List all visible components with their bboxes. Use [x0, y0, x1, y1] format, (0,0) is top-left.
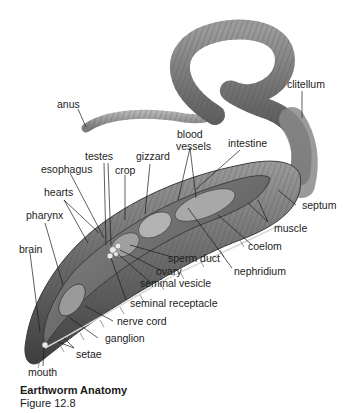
earthworm-anatomy-figure: anus clitellum blood vessels intestine t… [0, 0, 353, 413]
label-vessels: vessels [176, 140, 211, 152]
label-anus: anus [57, 98, 80, 110]
label-muscle: muscle [274, 222, 307, 234]
label-testes: testes [85, 150, 113, 162]
label-ovary: ovary [156, 265, 182, 277]
label-nephridium: nephridium [234, 265, 286, 277]
label-gizzard: gizzard [136, 150, 170, 162]
label-brain: brain [19, 243, 42, 255]
label-mouth: mouth [28, 366, 57, 378]
label-seminal-receptacle: seminal receptacle [130, 297, 218, 309]
label-ganglion: ganglion [105, 332, 145, 344]
label-setae: setae [76, 348, 102, 360]
figure-number: Figure 12.8 [20, 397, 76, 409]
label-seminal-vesicle: seminal vesicle [140, 277, 211, 289]
earthworm-illustration [0, 0, 353, 413]
label-sperm-duct: sperm duct [168, 252, 220, 264]
figure-title: Earthworm Anatomy [20, 384, 127, 396]
label-clitellum: clitellum [287, 78, 325, 90]
label-crop: crop [115, 164, 135, 176]
label-nerve-cord: nerve cord [117, 315, 167, 327]
label-intestine: intestine [228, 137, 267, 149]
label-blood: blood [177, 128, 203, 140]
label-pharynx: pharynx [26, 209, 63, 221]
label-septum: septum [302, 199, 336, 211]
label-esophagus: esophagus [41, 163, 92, 175]
label-hearts: hearts [44, 186, 73, 198]
label-coelom: coelom [248, 240, 282, 252]
